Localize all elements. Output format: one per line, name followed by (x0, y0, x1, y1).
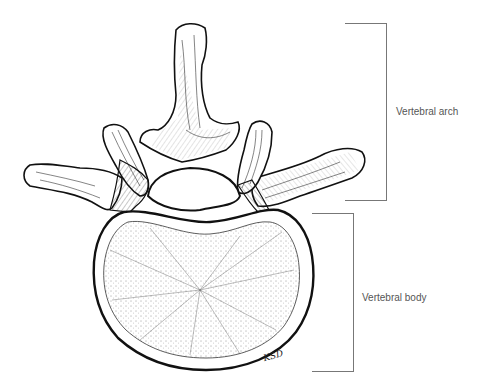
vertebral-body-bracket (312, 213, 354, 372)
vertebra-drawing: KSD (0, 0, 477, 386)
vertebral-arch-bracket (345, 23, 387, 201)
vertebral-body-label: Vertebral body (362, 292, 427, 303)
left-transverse-process (24, 164, 122, 210)
spinous-process (140, 24, 239, 162)
vertebral-body (94, 210, 314, 370)
vertebral-foramen (148, 168, 240, 210)
vertebral-arch-label: Vertebral arch (396, 106, 458, 117)
vertebra-illustration: KSD (0, 0, 477, 386)
